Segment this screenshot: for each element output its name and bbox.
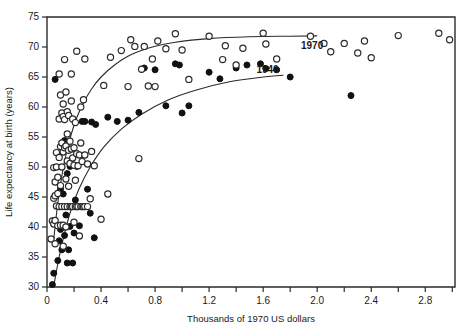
- data-point-1970: [233, 62, 239, 68]
- data-point-1970: [98, 216, 104, 222]
- data-point-1970: [141, 43, 147, 49]
- data-point-1970: [263, 41, 269, 47]
- data-point-1940: [348, 93, 354, 99]
- data-point-1940: [244, 62, 250, 68]
- data-point-1970: [74, 48, 80, 54]
- data-point-1970: [71, 145, 77, 151]
- data-point-1970: [341, 40, 347, 46]
- y-tick-label: 65: [28, 71, 40, 82]
- data-point-1970: [60, 243, 66, 249]
- data-point-1940: [70, 260, 76, 266]
- data-point-1970: [84, 161, 90, 167]
- data-point-1970: [61, 57, 67, 63]
- data-point-1970: [107, 54, 113, 60]
- x-tick-label: 1.2: [202, 295, 216, 306]
- data-point-1970: [307, 33, 313, 39]
- data-point-1940: [87, 210, 93, 216]
- data-point-1940: [152, 67, 158, 73]
- data-point-1970: [67, 138, 73, 144]
- data-point-1940: [93, 121, 99, 127]
- data-point-1970: [361, 38, 367, 44]
- data-point-1970: [63, 224, 69, 230]
- data-point-1970: [52, 241, 58, 247]
- y-tick-label: 40: [28, 221, 40, 232]
- data-point-1970: [105, 191, 111, 197]
- data-point-1940: [176, 62, 182, 68]
- data-point-1940: [55, 258, 61, 264]
- series-1970-points: [48, 30, 453, 249]
- data-point-1970: [136, 156, 142, 162]
- curve-label-1970: 1970: [301, 40, 324, 51]
- data-point-1970: [78, 140, 84, 146]
- data-point-1940: [91, 235, 97, 241]
- series-1940-points: [49, 61, 354, 288]
- data-point-1970: [64, 131, 70, 137]
- x-tick-label: 0.4: [94, 295, 108, 306]
- data-point-1970: [206, 33, 212, 39]
- data-point-1970: [447, 37, 453, 43]
- data-point-1970: [436, 30, 442, 36]
- data-point-1970: [220, 57, 226, 63]
- data-point-1970: [145, 83, 151, 89]
- data-point-1940: [51, 270, 57, 276]
- y-tick-label: 60: [28, 101, 40, 112]
- data-point-1970: [368, 55, 374, 61]
- data-point-1970: [118, 48, 124, 54]
- data-point-1970: [72, 177, 78, 183]
- data-point-1940: [217, 76, 223, 82]
- data-point-1970: [155, 38, 161, 44]
- data-point-1970: [84, 204, 90, 210]
- data-point-1940: [125, 117, 131, 123]
- data-point-1970: [274, 56, 280, 62]
- data-point-1940: [105, 114, 111, 120]
- data-point-1970: [138, 66, 144, 72]
- data-point-1970: [68, 98, 74, 104]
- data-point-1970: [78, 104, 84, 110]
- x-axis-title: Thousands of 1970 US dollars: [187, 313, 315, 324]
- data-point-1940: [136, 109, 142, 115]
- data-point-1970: [82, 56, 88, 62]
- data-point-1970: [163, 46, 169, 52]
- data-point-1970: [149, 56, 155, 62]
- data-point-1970: [179, 47, 185, 53]
- data-point-1940: [186, 103, 192, 109]
- y-tick-label: 75: [28, 11, 40, 22]
- data-point-1970: [152, 84, 158, 90]
- data-point-1940: [85, 186, 91, 192]
- data-point-1970: [55, 190, 61, 196]
- data-point-1940: [52, 76, 58, 82]
- data-point-1970: [71, 219, 77, 225]
- data-point-1940: [49, 282, 55, 288]
- data-point-1970: [60, 101, 66, 107]
- x-tick-label: 2.8: [418, 295, 432, 306]
- data-point-1970: [128, 37, 134, 43]
- y-tick-label: 30: [28, 281, 40, 292]
- y-tick-label: 45: [28, 191, 40, 202]
- data-point-1970: [88, 148, 94, 154]
- data-point-1970: [186, 76, 192, 82]
- x-tick-label: 0.8: [148, 295, 162, 306]
- data-point-1940: [287, 74, 293, 80]
- chart-canvas: 30354045505560657075 00.40.81.21.62.02.4…: [0, 0, 471, 328]
- x-tick-label: 0: [44, 295, 50, 306]
- data-point-1970: [87, 196, 93, 202]
- data-point-1970: [56, 71, 62, 77]
- data-point-1970: [72, 120, 78, 126]
- x-tick-label: 2.0: [310, 295, 324, 306]
- data-point-1940: [62, 232, 68, 238]
- data-point-1970: [82, 152, 88, 158]
- data-point-1940: [163, 103, 169, 109]
- data-point-1940: [72, 197, 78, 203]
- data-point-1970: [76, 233, 82, 239]
- x-tick-label: 1.6: [256, 295, 270, 306]
- data-point-1970: [132, 43, 138, 49]
- data-point-1970: [101, 82, 107, 88]
- data-point-1970: [56, 154, 62, 160]
- data-point-1970: [260, 30, 266, 36]
- data-point-1970: [55, 174, 61, 180]
- y-tick-label: 35: [28, 251, 40, 262]
- curve-label-1940: 1940: [256, 64, 279, 75]
- data-point-1970: [57, 183, 63, 189]
- data-point-1970: [63, 89, 69, 95]
- data-point-1940: [82, 118, 88, 124]
